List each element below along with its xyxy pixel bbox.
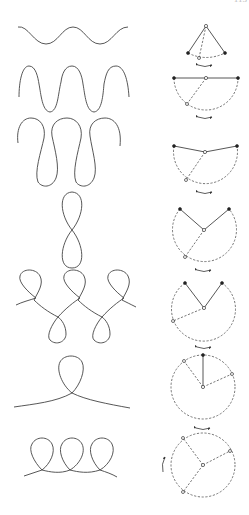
row-4 (62, 192, 236, 272)
bob-right-icon (221, 282, 224, 285)
bob-current-icon (198, 57, 201, 60)
row-6 (14, 354, 235, 430)
swing-arrow-icon (197, 270, 211, 272)
bob-bottom-left-icon (182, 491, 185, 494)
pivot-icon (204, 76, 207, 79)
trajectory-figure-eight (62, 192, 82, 268)
pendulum-over-horizontal-swing (173, 145, 239, 194)
pivot-icon (203, 150, 206, 153)
bob-right-icon (231, 373, 234, 376)
pendulum-horizontal-swing (173, 76, 240, 118)
bob-current-icon (172, 320, 175, 323)
pendulum-separatrix-circle (171, 354, 235, 430)
bob-right-icon (224, 52, 227, 55)
row-1 (18, 24, 227, 66)
bob-current-icon (186, 103, 189, 106)
swing-arrow-icon (198, 117, 212, 119)
row-7 (24, 433, 235, 497)
row-2 (19, 66, 240, 119)
swing-arrow-icon (198, 192, 212, 194)
bob-left-icon (183, 360, 186, 363)
bob-current-icon (185, 179, 188, 182)
pivot-icon (202, 228, 205, 231)
pendulum-large-swing (173, 208, 237, 272)
bob-left-icon (173, 77, 176, 80)
swing-arrow-icon (197, 347, 211, 349)
pivot-icon (201, 385, 204, 388)
trajectory-steep-wave (19, 66, 129, 112)
rotation-arrow-icon (162, 457, 165, 472)
trajectory-single-loop (14, 356, 130, 408)
pendulum-full-rotation (162, 433, 235, 497)
bob-top-left-icon (182, 437, 185, 440)
pendulum-figure (0, 0, 249, 515)
swing-arrow-icon (198, 65, 212, 67)
pendulum-very-large-swing (171, 282, 235, 349)
trajectory-s-shaped-wave (18, 118, 121, 186)
pivot-icon (202, 306, 205, 309)
bob-left-icon (187, 52, 190, 55)
pivot-icon (204, 24, 207, 27)
pendulum-small-swing (187, 24, 227, 66)
row-5 (16, 270, 236, 349)
trajectory-continuous-loops (24, 438, 117, 477)
bob-left-icon (184, 282, 187, 285)
bob-right-icon (228, 208, 231, 211)
trajectory-looped-wave (16, 270, 136, 343)
trajectory-sinusoidal-wave (18, 27, 128, 44)
bob-left-icon (173, 145, 176, 148)
bob-right-icon (237, 77, 240, 80)
row-3 (18, 118, 239, 194)
swing-arrow-icon (196, 428, 210, 430)
bob-current-icon (184, 256, 187, 259)
bob-top-icon (202, 354, 205, 357)
bob-right-icon (229, 450, 232, 453)
bob-left-icon (179, 208, 182, 211)
bob-right-icon (236, 145, 239, 148)
pivot-icon (201, 463, 204, 466)
